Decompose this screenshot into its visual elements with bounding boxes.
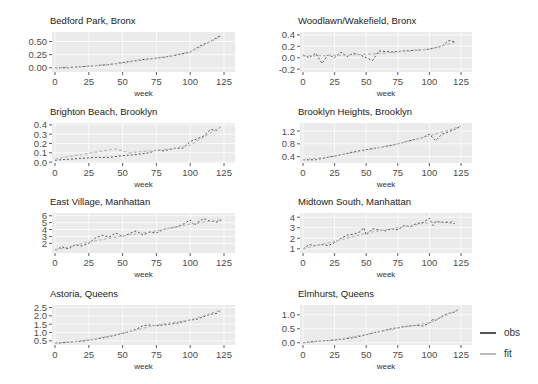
- x-tick-label: 50: [361, 167, 372, 178]
- y-tick-label: 0.50: [29, 36, 48, 47]
- panel-title: East Village, Manhattan: [50, 196, 150, 207]
- x-tick-label: 25: [84, 167, 95, 178]
- x-axis-label: week: [376, 270, 397, 279]
- y-tick-label: 1: [290, 243, 295, 254]
- plot-background: [52, 32, 235, 72]
- fit-line-swatch: [480, 353, 496, 355]
- x-tick-label: 50: [361, 76, 372, 87]
- panel-title: Bedford Park, Bronx: [50, 15, 136, 26]
- x-tick-label: 25: [84, 76, 95, 87]
- x-tick-label: 125: [453, 257, 469, 268]
- y-tick-label: 0.8: [282, 138, 295, 149]
- x-tick-label: 125: [216, 349, 232, 360]
- y-tick-label: 0.4: [34, 119, 47, 130]
- y-tick-label: 1.2: [282, 126, 295, 137]
- x-tick-label: 25: [329, 349, 340, 360]
- x-axis-label: week: [376, 89, 397, 98]
- y-tick-label: 1.0: [282, 309, 295, 320]
- x-tick-label: 100: [421, 76, 437, 87]
- x-tick-label: 125: [216, 76, 232, 87]
- x-tick-label: 75: [151, 76, 162, 87]
- panel-title: Woodlawn/Wakefield, Bronx: [298, 15, 417, 26]
- x-tick-label: 0: [300, 349, 305, 360]
- x-tick-label: 125: [216, 257, 232, 268]
- y-tick-label: 6: [42, 210, 47, 221]
- facet-panel: Brooklyn Heights, Brooklyn0.40.81.202550…: [282, 106, 472, 189]
- x-axis-label: week: [133, 270, 154, 279]
- y-tick-label: 0.0: [282, 337, 295, 348]
- panel-title: Midtown South, Manhattan: [298, 196, 411, 207]
- x-tick-label: 75: [151, 167, 162, 178]
- x-tick-label: 125: [453, 76, 469, 87]
- y-tick-label: 3: [290, 222, 295, 233]
- plot-background: [52, 123, 235, 163]
- y-tick-label: 4: [290, 212, 295, 223]
- plot-background: [300, 32, 472, 72]
- x-tick-label: 100: [182, 167, 198, 178]
- x-tick-label: 125: [453, 349, 469, 360]
- plot-background: [300, 305, 472, 345]
- legend-item-fit: fit: [480, 343, 538, 364]
- facet-panel: Brighton Beach, Brooklyn0.00.10.20.30.40…: [34, 106, 235, 189]
- x-tick-label: 100: [421, 349, 437, 360]
- x-tick-label: 50: [361, 257, 372, 268]
- x-axis-label: week: [376, 180, 397, 189]
- x-tick-label: 25: [329, 167, 340, 178]
- x-tick-label: 0: [300, 167, 305, 178]
- y-tick-label: 0.25: [29, 49, 48, 60]
- x-tick-label: 50: [361, 349, 372, 360]
- panel-title: Astoria, Queens: [50, 288, 118, 299]
- x-tick-label: 25: [84, 349, 95, 360]
- x-tick-label: 0: [52, 76, 57, 87]
- x-tick-label: 25: [329, 257, 340, 268]
- plot-background: [52, 305, 235, 345]
- x-tick-label: 75: [151, 349, 162, 360]
- x-tick-label: 75: [393, 257, 404, 268]
- legend-label-fit: fit: [504, 348, 512, 359]
- y-tick-label: 0.00: [29, 62, 48, 73]
- x-tick-label: 100: [421, 167, 437, 178]
- facet-panel: Astoria, Queens0.51.01.52.02.50255075100…: [34, 288, 235, 371]
- x-tick-label: 125: [453, 167, 469, 178]
- legend-label-obs: obs: [504, 327, 520, 338]
- facet-panel: East Village, Manhattan23456025507510012…: [42, 196, 235, 279]
- legend-item-obs: obs: [480, 322, 538, 343]
- panel-title: Elmhurst, Queens: [298, 288, 374, 299]
- y-tick-label: 2.5: [34, 302, 47, 313]
- facet-panel: Midtown South, Manhattan1234025507510012…: [290, 196, 472, 279]
- y-tick-label: 0.4: [282, 151, 295, 162]
- y-tick-label: 0.4: [282, 29, 295, 40]
- x-tick-label: 75: [151, 257, 162, 268]
- panel-title: Brooklyn Heights, Brooklyn: [298, 106, 412, 117]
- y-tick-label: 0.0: [282, 52, 295, 63]
- y-tick-label: 0.5: [282, 323, 295, 334]
- y-tick-label: -0.2: [279, 64, 295, 75]
- x-axis-label: week: [133, 362, 154, 371]
- faceted-line-chart: Bedford Park, Bronx0.000.250.50025507510…: [0, 0, 538, 384]
- x-axis-label: week: [133, 89, 154, 98]
- chart-legend: obs fit: [480, 322, 538, 364]
- facet-panel: Bedford Park, Bronx0.000.250.50025507510…: [29, 15, 236, 98]
- x-tick-label: 0: [300, 257, 305, 268]
- x-tick-label: 75: [393, 349, 404, 360]
- facet-panel: Elmhurst, Queens0.00.51.00255075100125we…: [282, 288, 472, 371]
- x-tick-label: 25: [84, 257, 95, 268]
- x-tick-label: 100: [182, 76, 198, 87]
- x-tick-label: 75: [393, 76, 404, 87]
- x-tick-label: 50: [117, 76, 128, 87]
- x-tick-label: 100: [182, 257, 198, 268]
- x-axis-label: week: [376, 362, 397, 371]
- facet-panel: Woodlawn/Wakefield, Bronx-0.20.00.20.402…: [279, 15, 472, 98]
- x-tick-label: 50: [117, 349, 128, 360]
- x-tick-label: 0: [52, 349, 57, 360]
- panel-title: Brighton Beach, Brooklyn: [50, 106, 157, 117]
- x-tick-label: 100: [421, 257, 437, 268]
- x-tick-label: 25: [329, 76, 340, 87]
- x-tick-label: 0: [52, 167, 57, 178]
- x-axis-label: week: [133, 180, 154, 189]
- obs-line-swatch: [480, 332, 496, 334]
- x-tick-label: 0: [52, 257, 57, 268]
- x-tick-label: 125: [216, 167, 232, 178]
- x-tick-label: 0: [300, 76, 305, 87]
- x-tick-label: 100: [182, 349, 198, 360]
